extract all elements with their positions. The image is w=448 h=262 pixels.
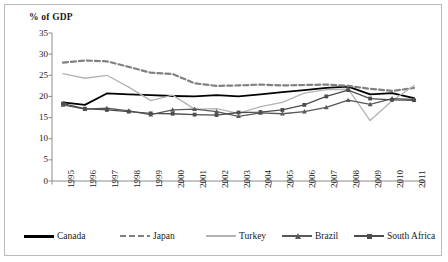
x-tick-label: 2007	[330, 170, 339, 188]
x-tick-label: 2003	[243, 170, 252, 188]
legend-item-south-africa[interactable]: South Africa	[354, 228, 435, 244]
legend-swatch-icon	[282, 231, 312, 241]
legend-item-canada[interactable]: Canada	[24, 228, 86, 244]
legend-item-brazil[interactable]: Brazil	[282, 228, 338, 244]
x-tick-label: 1999	[155, 170, 164, 188]
x-tick-label: 2001	[199, 170, 208, 188]
legend-item-japan[interactable]: Japan	[120, 228, 175, 244]
legend-label: Brazil	[315, 231, 338, 241]
legend-label: Canada	[57, 231, 86, 241]
x-tick-label: 1998	[133, 170, 142, 188]
x-tick-label: 2008	[352, 170, 361, 188]
x-tick-label: 1997	[111, 170, 120, 188]
x-tick-label: 2006	[308, 170, 317, 188]
chart-legend: CanadaJapanTurkeyBrazilSouth Africa	[24, 228, 424, 244]
legend-label: South Africa	[387, 231, 435, 241]
x-axis-labels: 1995199619971998199920002001200220032004…	[0, 0, 448, 262]
x-tick-label: 2005	[286, 170, 295, 188]
x-tick-label: 2010	[396, 170, 405, 188]
x-tick-label: 2000	[177, 170, 186, 188]
x-tick-label: 2002	[221, 170, 230, 188]
legend-label: Turkey	[239, 231, 266, 241]
x-tick-label: 1995	[67, 170, 76, 188]
legend-swatch-icon	[120, 231, 150, 241]
legend-item-turkey[interactable]: Turkey	[206, 228, 266, 244]
legend-swatch-icon	[354, 231, 384, 241]
x-tick-label: 2011	[418, 170, 427, 188]
x-tick-label: 1996	[89, 170, 98, 188]
legend-swatch-icon	[206, 231, 236, 241]
legend-label: Japan	[153, 231, 175, 241]
x-tick-label: 2004	[264, 170, 273, 188]
x-tick-label: 2009	[374, 170, 383, 188]
legend-swatch-icon	[24, 231, 54, 241]
